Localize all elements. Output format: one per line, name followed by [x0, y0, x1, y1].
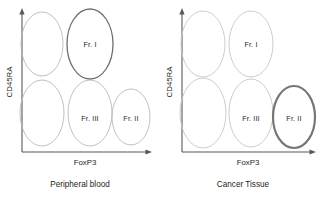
- y-axis-label: CD45RA: [5, 67, 14, 98]
- gate-ellipse-fr-2: [273, 86, 315, 148]
- gate-ellipse-fr-3: [229, 79, 273, 147]
- axes-peripheral-blood: [19, 8, 152, 155]
- x-axis-label: FoxP3: [74, 158, 97, 167]
- panel-caption-cancer-tissue: Cancer Tissue: [217, 180, 269, 189]
- y-axis-label: CD45RA: [165, 67, 174, 98]
- panel-peripheral-blood: Fr. I Fr. III Fr. II CD45RA FoxP3 Periph…: [0, 0, 159, 203]
- figure-container: Fr. I Fr. III Fr. II CD45RA FoxP3 Periph…: [0, 0, 319, 203]
- gate-ellipse-fr-2: [112, 89, 150, 145]
- x-axis-label: FoxP3: [237, 158, 260, 167]
- y-axis-arrowhead-icon: [179, 8, 184, 15]
- gate-ellipse-top-left: [21, 12, 63, 76]
- panel-caption-peripheral-blood: Peripheral blood: [50, 180, 110, 189]
- gate-ellipse-fr-1: [67, 9, 113, 79]
- panel-cancer-tissue: Fr. I Fr. III Fr. II CD45RA FoxP3 Cancer…: [160, 0, 319, 203]
- y-axis-arrowhead-icon: [19, 8, 24, 15]
- plot-area-peripheral-blood: [0, 0, 159, 203]
- gate-ellipse-bottom-left: [180, 78, 226, 148]
- gate-ellipse-fr-1: [229, 11, 273, 77]
- gate-ellipse-fr-3: [68, 80, 112, 146]
- x-axis-arrowhead-icon: [310, 149, 317, 154]
- gate-ellipse-bottom-left: [20, 80, 64, 146]
- gate-ellipse-top-left: [181, 11, 225, 77]
- x-axis-arrowhead-icon: [146, 149, 153, 154]
- axes-cancer-tissue: [179, 8, 316, 155]
- plot-area-cancer-tissue: [160, 0, 319, 203]
